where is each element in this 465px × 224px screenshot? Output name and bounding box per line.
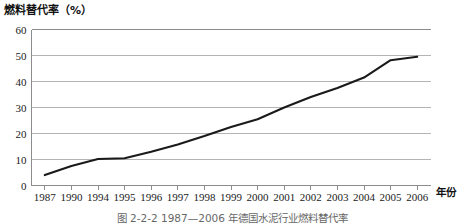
x-tick-label: 1995 bbox=[114, 191, 137, 203]
x-tick-label: 2001 bbox=[273, 191, 295, 203]
x-tick-label: 1987 bbox=[34, 191, 57, 203]
y-tick-label: 40 bbox=[16, 76, 28, 88]
figure-container: 燃料替代率（%） 0102030405060 19871990199419951… bbox=[0, 0, 465, 224]
y-tick-label: 0 bbox=[21, 180, 27, 192]
x-tick-label: 2003 bbox=[326, 191, 349, 203]
x-tick-label: 1990 bbox=[60, 191, 83, 203]
y-tick-labels: 0102030405060 bbox=[16, 24, 28, 192]
x-tick-label: 2002 bbox=[300, 191, 322, 203]
x-tick-label: 2005 bbox=[380, 191, 403, 203]
figure-caption: 图 2-2-2 1987—2006 年德国水泥行业燃料替代率 bbox=[0, 210, 465, 224]
y-tick-label: 60 bbox=[16, 24, 28, 36]
series-line bbox=[45, 57, 417, 175]
x-tick-marks bbox=[45, 186, 417, 191]
data-series-line bbox=[45, 57, 417, 175]
y-tick-label: 10 bbox=[16, 154, 28, 166]
x-tick-label: 1997 bbox=[167, 191, 190, 203]
x-tick-label: 2000 bbox=[247, 191, 270, 203]
x-tick-labels: 1987199019941995199619971998199920002001… bbox=[34, 191, 429, 203]
x-tick-label: 1998 bbox=[193, 191, 216, 203]
x-tick-label: 2006 bbox=[406, 191, 429, 203]
x-tick-label: 1994 bbox=[87, 191, 110, 203]
x-axis-name: 年份 bbox=[436, 186, 457, 198]
line-chart: 0102030405060 19871990199419951996199719… bbox=[0, 0, 465, 224]
x-tick-label: 1996 bbox=[140, 191, 163, 203]
x-tick-label: 1999 bbox=[220, 191, 243, 203]
gridlines bbox=[32, 30, 431, 186]
y-tick-label: 20 bbox=[16, 128, 28, 140]
y-tick-label: 30 bbox=[16, 102, 28, 114]
y-tick-label: 50 bbox=[16, 50, 28, 62]
x-tick-label: 2004 bbox=[353, 191, 376, 203]
